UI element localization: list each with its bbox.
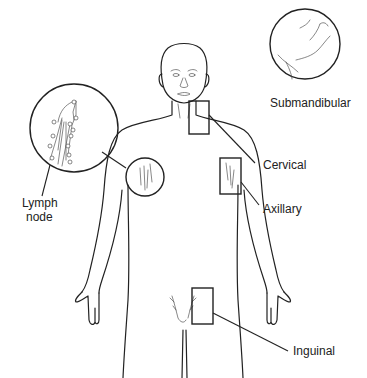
- label-node: node: [26, 210, 53, 224]
- lymph-node-inset: [30, 84, 118, 172]
- inguinal-marker: [192, 288, 213, 324]
- lymph-node-leader-line: [42, 165, 50, 196]
- label-inguinal: Inguinal: [293, 344, 335, 358]
- submandibular-inset: [270, 9, 340, 79]
- label-lymph: Lymph: [22, 196, 58, 210]
- head: [159, 44, 209, 104]
- label-submandibular: Submandibular: [270, 96, 351, 110]
- body-diagram: [0, 0, 367, 378]
- label-cervical: Cervical: [263, 158, 306, 172]
- lymph-node-connector-line: [102, 152, 126, 168]
- cervical-leader-line: [209, 115, 255, 163]
- label-axillary: Axillary: [263, 202, 302, 216]
